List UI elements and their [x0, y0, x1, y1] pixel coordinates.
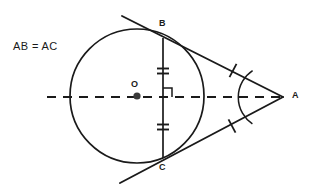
given-condition-label: AB = AC	[13, 41, 58, 52]
geometry-diagram-canvas: AB = AC O B C A	[0, 0, 317, 190]
point-label-o: O	[131, 80, 138, 89]
point-label-a: A	[292, 91, 299, 100]
right-angle-marker	[163, 88, 172, 97]
point-label-b: B	[159, 19, 166, 28]
point-label-c: C	[159, 163, 166, 172]
center-point-dot	[133, 92, 140, 99]
tangent-line-ac	[120, 97, 283, 183]
